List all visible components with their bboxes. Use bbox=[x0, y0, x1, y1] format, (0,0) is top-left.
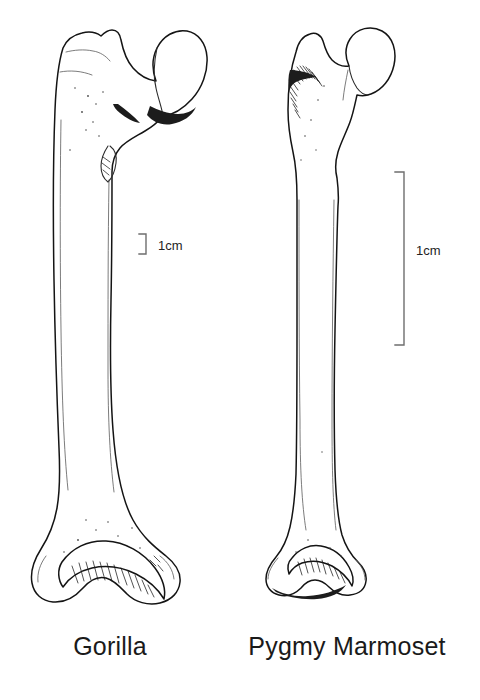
gorilla-scalebar-label: 1cm bbox=[158, 238, 183, 253]
pygmy-marmoset-caption: Pygmy Marmoset bbox=[248, 632, 445, 660]
comparative-femur-figure: 1cm Gorilla bbox=[0, 0, 480, 700]
gorilla-caption: Gorilla bbox=[73, 632, 147, 660]
figure-canvas: 1cm Gorilla bbox=[0, 0, 480, 700]
marmoset-scalebar-label: 1cm bbox=[416, 243, 441, 258]
